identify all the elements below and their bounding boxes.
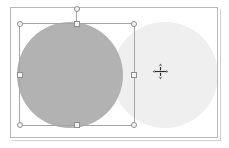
app-root	[0, 0, 229, 148]
shape-ellipse-left-selected[interactable]	[17, 22, 123, 128]
shape-ellipse-right[interactable]	[112, 22, 218, 128]
slide-canvas[interactable]	[10, 7, 218, 138]
